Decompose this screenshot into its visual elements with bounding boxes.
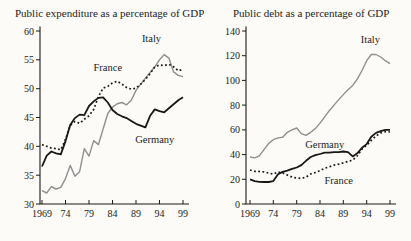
debt-chart-panel: Public debt as a percentage of GDP 14012… (210, 0, 411, 241)
y-tick-label: 100 (225, 75, 240, 86)
x-tick-label: 99 (178, 208, 188, 219)
x-tick-label: 79 (84, 208, 94, 219)
series-label-france: France (324, 175, 353, 186)
series-label-germany: Germany (135, 134, 175, 145)
y-tick-label: 120 (225, 50, 240, 61)
axis-lines (246, 27, 396, 205)
series-label-italy: Italy (361, 34, 381, 45)
expenditure-chart-panel: Public expenditure as a percentage of GD… (0, 0, 210, 241)
y-tick-label: 40 (24, 141, 34, 152)
two-panel-line-chart-figure: Public expenditure as a percentage of GD… (0, 0, 411, 241)
y-tick-label: 60 (24, 26, 34, 37)
series-label-france: France (94, 62, 123, 73)
x-tick-label: 94 (155, 208, 165, 219)
x-tick-label: 1969 (240, 208, 260, 219)
x-tick-label: 94 (362, 208, 372, 219)
debt-chart-plot: 1401201008060402001969747984899499ItalyF… (210, 0, 411, 241)
y-tick-label: 60 (230, 124, 240, 135)
x-tick-label: 1969 (32, 208, 52, 219)
x-tick-label: 89 (338, 208, 348, 219)
expenditure-chart-plot: 605550454035301969747984899499ItalyFranc… (0, 0, 210, 241)
x-tick-label: 79 (292, 208, 302, 219)
y-tick-label: 140 (225, 26, 240, 37)
series-line-italy (42, 55, 183, 193)
x-tick-label: 74 (268, 208, 278, 219)
y-tick-label: 40 (230, 149, 240, 160)
series-label-germany: Germany (305, 139, 345, 150)
y-tick-label: 80 (230, 100, 240, 111)
y-tick-label: 20 (230, 174, 240, 185)
x-tick-label: 84 (315, 208, 325, 219)
y-tick-label: 50 (24, 83, 34, 94)
x-tick-label: 74 (61, 208, 71, 219)
y-tick-label: 45 (24, 112, 34, 123)
axis-lines (40, 27, 189, 205)
x-tick-label: 99 (385, 208, 395, 219)
x-tick-label: 89 (131, 208, 141, 219)
y-tick-label: 55 (24, 54, 34, 65)
y-tick-label: 35 (24, 170, 34, 181)
series-label-italy: Italy (142, 33, 162, 44)
x-tick-label: 84 (108, 208, 118, 219)
